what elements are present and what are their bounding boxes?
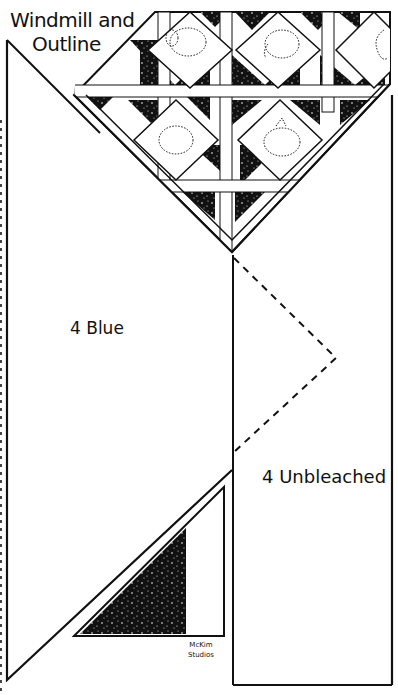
small-triangle-piece (74, 487, 224, 636)
pattern-diagram (0, 0, 398, 695)
blue-piece-label: 4 Blue (70, 318, 124, 338)
title-line-2: Outline (10, 32, 134, 56)
unbleached-piece-label: 4 Unbleached (262, 466, 386, 487)
studio-credit: McKim Studios (188, 640, 214, 660)
credit-line-1: McKim (188, 640, 214, 650)
title-line-1: Windmill and (10, 8, 134, 32)
dashed-fold-line (234, 258, 336, 452)
credit-line-2: Studios (188, 650, 214, 660)
pattern-title: Windmill and Outline (10, 8, 134, 56)
